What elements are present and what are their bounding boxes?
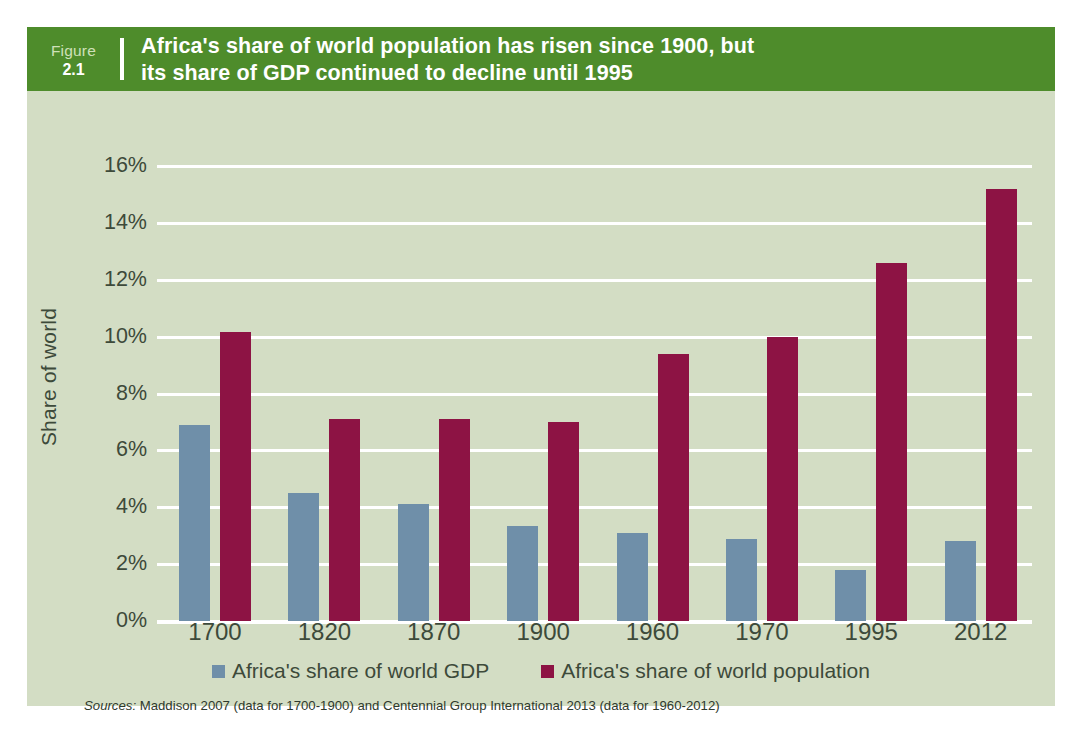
x-tick-1995: 1995: [845, 617, 898, 647]
bar: [617, 533, 648, 621]
bar: [507, 526, 538, 621]
y-axis-title: Share of world: [37, 207, 61, 547]
bar: [398, 504, 429, 621]
bar-group: [813, 166, 922, 621]
x-tick-1820: 1820: [298, 617, 351, 647]
y-tick-16%: 16%: [104, 155, 147, 177]
bar-group: [923, 166, 1032, 621]
y-tick-10%: 10%: [104, 326, 147, 348]
y-tick-0%: 0%: [116, 610, 147, 632]
bar: [439, 419, 470, 621]
figure-number-block: Figure 2.1: [27, 27, 120, 91]
bar: [835, 570, 866, 621]
legend-label: Africa's share of world population: [561, 659, 870, 683]
source-text: Maddison 2007 (data for 1700-1900) and C…: [136, 698, 720, 713]
bar-group: [157, 166, 266, 621]
x-tick-1870: 1870: [407, 617, 460, 647]
legend-item: Africa's share of world population: [541, 659, 870, 683]
bar: [876, 263, 907, 621]
bar-group: [595, 166, 704, 621]
bar-group: [266, 166, 375, 621]
y-tick-14%: 14%: [104, 212, 147, 234]
legend-label: Africa's share of world GDP: [232, 659, 489, 683]
figure-title-line-2: its share of GDP continued to decline un…: [141, 60, 1055, 87]
x-tick-2012: 2012: [954, 617, 1007, 647]
figure-title: Africa's share of world population has r…: [124, 27, 1055, 91]
figure-number-label: 2.1: [62, 60, 84, 79]
chart-plot-region: Share of world 0%2%4%6%8%10%12%14%16% 17…: [27, 91, 1055, 706]
bars-layer: [157, 91, 1032, 706]
source-note: Sources: Maddison 2007 (data for 1700-19…: [84, 698, 720, 714]
y-tick-8%: 8%: [116, 383, 147, 405]
figure-word-label: Figure: [51, 42, 96, 60]
bar: [945, 541, 976, 621]
source-label: Sources:: [84, 698, 136, 713]
bar: [329, 419, 360, 621]
y-tick-2%: 2%: [116, 553, 147, 575]
bar-group: [485, 166, 594, 621]
chart-grid-area: [157, 91, 1032, 706]
y-tick-4%: 4%: [116, 497, 147, 519]
figure-title-line-1: Africa's share of world population has r…: [141, 33, 1055, 60]
y-tick-12%: 12%: [104, 269, 147, 291]
figure-header-banner: Figure 2.1 Africa's share of world popul…: [27, 27, 1055, 91]
x-tick-1700: 1700: [188, 617, 241, 647]
legend-item: Africa's share of world GDP: [212, 659, 489, 683]
bar: [726, 539, 757, 621]
x-axis-tick-labels: 17001820187019001960197019952012: [157, 617, 1032, 661]
y-axis-tick-labels: 0%2%4%6%8%10%12%14%16%: [69, 91, 147, 706]
bar-group: [704, 166, 813, 621]
bar: [986, 189, 1017, 621]
bar: [767, 337, 798, 621]
bar: [179, 425, 210, 621]
y-tick-6%: 6%: [116, 440, 147, 462]
bar: [548, 422, 579, 621]
legend-swatch-icon: [212, 665, 225, 678]
x-tick-1900: 1900: [516, 617, 569, 647]
bar: [220, 332, 251, 621]
bar-group: [376, 166, 485, 621]
bar: [288, 493, 319, 621]
bar: [658, 354, 689, 621]
figure-panel: Figure 2.1 Africa's share of world popul…: [27, 27, 1055, 706]
x-tick-1970: 1970: [735, 617, 788, 647]
x-tick-1960: 1960: [626, 617, 679, 647]
chart-legend: Africa's share of world GDPAfrica's shar…: [27, 659, 1055, 683]
legend-swatch-icon: [541, 665, 554, 678]
